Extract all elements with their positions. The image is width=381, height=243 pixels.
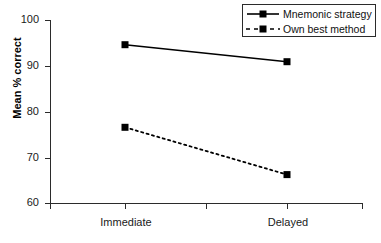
legend-item-own-best-method: Own best method: [243, 21, 375, 37]
legend: Mnemonic strategy Own best method: [242, 4, 376, 37]
y-axis-label-90: 90: [13, 59, 39, 71]
data-point-mnemonic-delayed: [284, 58, 291, 65]
y-axis-label-100: 100: [13, 13, 39, 25]
data-point-mnemonic-immediate: [122, 41, 129, 48]
y-axis-label-70: 70: [13, 151, 39, 163]
legend-item-mnemonic-strategy: Mnemonic strategy: [243, 6, 375, 22]
legend-label-own-best-method: Own best method: [283, 23, 365, 35]
series-line-own-best-method: [125, 127, 287, 174]
legend-swatch-dashed-line: [243, 22, 283, 36]
data-point-own-best-immediate: [122, 124, 129, 131]
legend-swatch-solid-line: [243, 7, 283, 21]
series-line-mnemonic-strategy: [125, 45, 287, 62]
x-axis-label-delayed: Delayed: [248, 216, 328, 228]
chart-figure: Mean % correct 100 90 80 70 60 Immediate…: [0, 0, 381, 243]
legend-label-mnemonic-strategy: Mnemonic strategy: [283, 8, 372, 20]
y-axis-label-80: 80: [13, 105, 39, 117]
y-axis-label-60: 60: [13, 196, 39, 208]
x-axis-label-immediate: Immediate: [86, 216, 166, 228]
data-point-own-best-delayed: [284, 171, 291, 178]
